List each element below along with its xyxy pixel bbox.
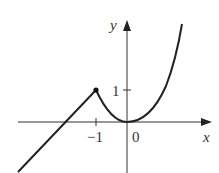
filled-dot — [93, 87, 98, 92]
x-axis-arrow-icon — [201, 118, 212, 126]
tick-label-0: 0 — [132, 129, 140, 145]
function-graph: y x −1 0 1 — [0, 0, 219, 173]
y-axis-label: y — [108, 17, 117, 33]
tick-label-neg1: −1 — [87, 129, 103, 145]
curved-piece — [96, 24, 182, 122]
tick-label-1: 1 — [112, 83, 120, 99]
linear-piece — [18, 90, 96, 172]
y-axis-arrow-icon — [123, 20, 131, 31]
x-axis-label: x — [202, 129, 210, 145]
